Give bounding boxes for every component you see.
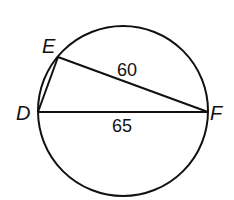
- length-label-ef: 60: [117, 61, 137, 79]
- circle-diagram: E D F 60 65: [0, 0, 234, 200]
- diagram-canvas: [0, 0, 234, 200]
- segment-de: [38, 57, 58, 112]
- length-label-df: 65: [112, 117, 132, 135]
- point-label-e: E: [42, 36, 55, 56]
- point-label-f: F: [210, 103, 222, 123]
- point-label-d: D: [16, 103, 30, 123]
